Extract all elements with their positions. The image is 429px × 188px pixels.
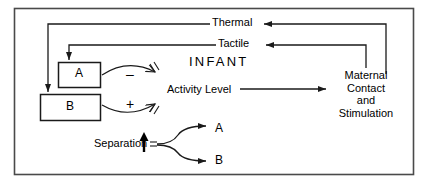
separation-outcome-b-label: B xyxy=(215,154,223,166)
separation-branch-b xyxy=(157,145,206,161)
separation-label: Separation xyxy=(94,138,147,149)
negative-sign-label: – xyxy=(120,67,140,81)
box-b-label: B xyxy=(40,100,100,112)
separation-outcome-a-label: A xyxy=(215,122,223,134)
thermal-feedback-line xyxy=(264,24,386,74)
maternal-contact-label: Maternal Contact and Stimulation xyxy=(326,69,406,119)
activity-level-label: Activity Level xyxy=(167,84,231,95)
diagram-title-infant: INFANT xyxy=(189,55,248,68)
pathway-label-tactile: Tactile xyxy=(218,38,249,49)
separation-branch-a xyxy=(157,126,206,144)
diagram-canvas: Thermal Tactile INFANT Activity Level Ma… xyxy=(0,0,429,188)
pathway-label-thermal: Thermal xyxy=(212,17,252,28)
positive-sign-label: + xyxy=(120,97,140,111)
separation-interruption-marks xyxy=(150,142,157,146)
box-a-label: A xyxy=(58,67,100,79)
tactile-feedback-line xyxy=(266,45,366,68)
